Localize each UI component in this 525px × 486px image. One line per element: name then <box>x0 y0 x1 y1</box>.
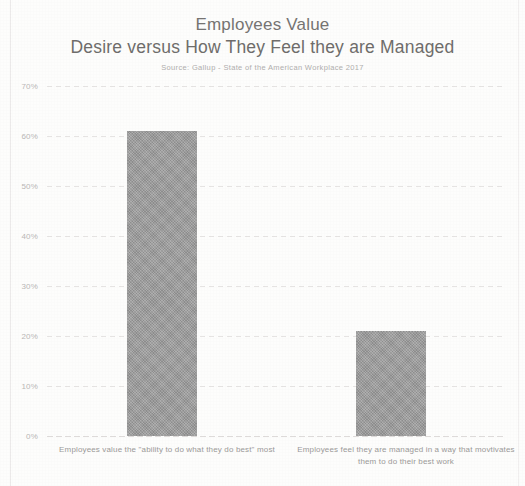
gridline-70: 70% <box>47 86 505 87</box>
gridline-30: 30% <box>47 286 505 287</box>
chart-title-block: Employees Value Desire versus How They F… <box>0 14 525 73</box>
y-axis-tick-60: 60% <box>21 132 38 141</box>
bar-0 <box>127 131 197 436</box>
chart-page: Employees Value Desire versus How They F… <box>0 0 525 486</box>
plot-area: 70%60%50%40%30%20%10%0% <box>47 86 505 436</box>
chart-subtitle-line: Desire versus How They Feel they are Man… <box>0 36 525 58</box>
chart-title: Employees Value <box>0 14 525 36</box>
y-axis-tick-70: 70% <box>21 82 38 91</box>
y-axis-tick-50: 50% <box>21 182 38 191</box>
gridline-40: 40% <box>47 236 505 237</box>
y-axis-tick-0: 0% <box>26 432 38 441</box>
y-axis-tick-40: 40% <box>21 232 38 241</box>
y-axis-tick-30: 30% <box>21 282 38 291</box>
gridline-20: 20% <box>47 336 505 337</box>
gridline-60: 60% <box>47 136 505 137</box>
gridline-10: 10% <box>47 386 505 387</box>
bar-1 <box>356 331 426 436</box>
x-axis-label-1: Employees feel they are managed in a way… <box>288 444 524 467</box>
y-axis-tick-10: 10% <box>21 382 38 391</box>
x-axis-label-0: Employees value the "ability to do what … <box>46 444 288 456</box>
gridline-0: 0% <box>47 436 505 437</box>
y-axis-tick-20: 20% <box>21 332 38 341</box>
gridline-50: 50% <box>47 186 505 187</box>
chart-source-note: Source: Gallup - State of the American W… <box>0 63 525 73</box>
